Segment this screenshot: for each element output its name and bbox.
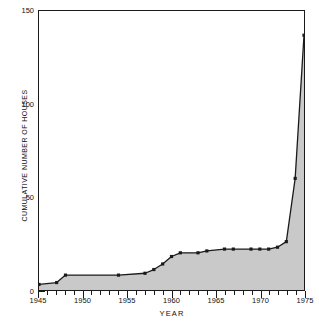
data-point: [161, 262, 164, 265]
x-tick-label: 1955: [118, 296, 135, 305]
data-point: [55, 281, 58, 284]
x-minor-tick: [100, 291, 101, 295]
data-point: [205, 249, 208, 252]
data-point: [302, 34, 304, 37]
x-minor-tick: [269, 291, 270, 295]
x-minor-tick: [118, 291, 119, 295]
plot-area: [38, 10, 305, 291]
x-minor-tick: [136, 291, 137, 295]
x-minor-tick: [243, 291, 244, 295]
x-minor-tick: [225, 291, 226, 295]
data-point: [267, 247, 270, 250]
data-point: [294, 177, 297, 180]
x-minor-tick: [74, 291, 75, 295]
data-point: [143, 272, 146, 275]
data-point: [276, 246, 279, 249]
x-tick-label: 1965: [207, 296, 224, 305]
x-minor-tick: [189, 291, 190, 295]
cumulative-houses-chart: CUMULATIVE NUMBER OF HOUSES 050100150 19…: [0, 0, 319, 324]
area-series: [39, 11, 304, 290]
y-tick-label: 150: [21, 6, 34, 15]
x-tick-label: 1950: [74, 296, 91, 305]
series-line: [39, 35, 304, 284]
x-minor-tick: [234, 291, 235, 295]
x-minor-tick: [154, 291, 155, 295]
x-minor-tick: [163, 291, 164, 295]
x-minor-tick: [278, 291, 279, 295]
x-tick-label: 1970: [252, 296, 269, 305]
data-point: [223, 247, 226, 250]
data-point: [196, 251, 199, 254]
x-axis-tick-labels: 1945195019551960196519701975: [38, 296, 306, 308]
x-minor-tick: [252, 291, 253, 295]
data-point: [232, 247, 235, 250]
x-minor-tick: [287, 291, 288, 295]
x-minor-tick: [109, 291, 110, 295]
x-minor-tick: [180, 291, 181, 295]
data-point: [258, 247, 261, 250]
x-tick-label: 1945: [29, 296, 46, 305]
x-minor-tick: [145, 291, 146, 295]
x-minor-tick: [65, 291, 66, 295]
x-minor-tick: [198, 291, 199, 295]
data-point: [64, 274, 67, 277]
x-minor-tick: [47, 291, 48, 295]
x-minor-tick: [207, 291, 208, 295]
data-point: [117, 274, 120, 277]
series-fill: [39, 35, 304, 290]
y-tick-label: 50: [26, 193, 34, 202]
data-point: [170, 255, 173, 258]
y-tick-label: 100: [21, 99, 34, 108]
x-axis-title: YEAR: [38, 309, 306, 318]
series-markers: [39, 34, 304, 286]
y-tick-label: 0: [30, 287, 34, 296]
x-minor-tick: [296, 291, 297, 295]
data-point: [285, 240, 288, 243]
data-point: [249, 247, 252, 250]
y-axis-tick-labels: 050100150: [12, 10, 34, 291]
x-minor-tick: [56, 291, 57, 295]
x-tick-label: 1975: [296, 296, 313, 305]
data-point: [179, 251, 182, 254]
data-point: [152, 268, 155, 271]
x-tick-label: 1960: [163, 296, 180, 305]
data-point: [39, 283, 41, 286]
x-minor-tick: [91, 291, 92, 295]
